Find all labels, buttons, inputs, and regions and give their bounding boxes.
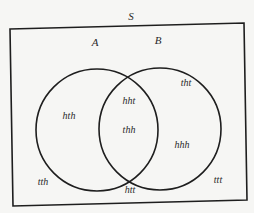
set-a-label: A <box>92 37 99 48</box>
set-a-circle <box>36 69 158 191</box>
element-tht: tht <box>181 78 192 88</box>
element-hth: hth <box>63 111 76 121</box>
set-b-label: B <box>155 35 162 46</box>
element-hhh: hhh <box>175 140 190 150</box>
element-ttt: ttt <box>214 175 222 185</box>
element-htt: htt <box>125 185 136 195</box>
element-thh: thh <box>123 125 136 135</box>
set-b-circle <box>99 68 221 190</box>
element-hht: hht <box>123 96 136 106</box>
universe-label: S <box>128 11 134 22</box>
element-tth: tth <box>38 177 49 187</box>
venn-diagram: S A B tht hht hth thh hhh tth htt ttt <box>0 0 254 213</box>
